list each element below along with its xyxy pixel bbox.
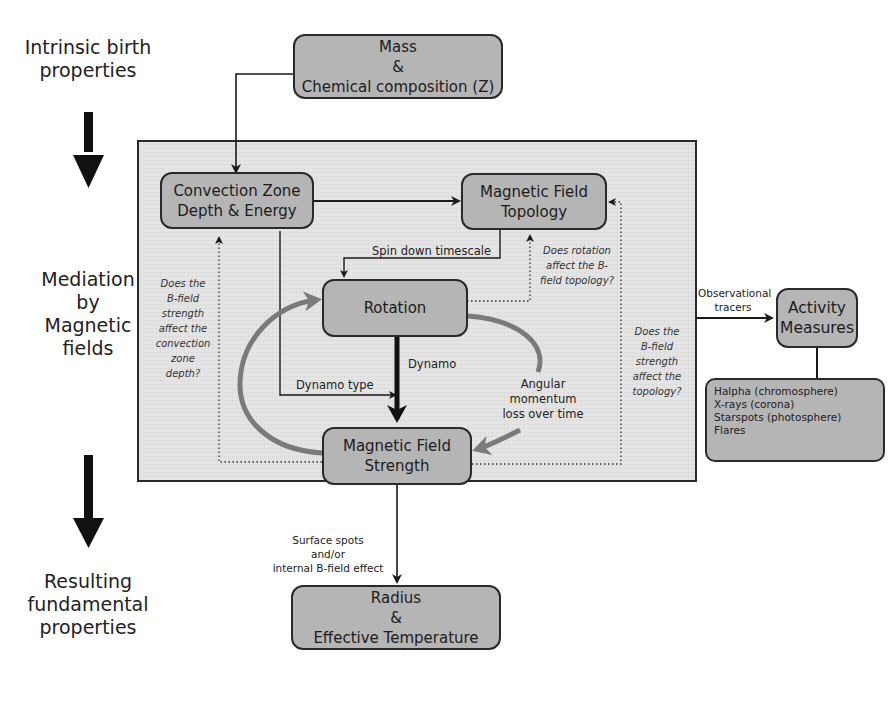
- question-line: affect the: [624, 369, 690, 384]
- box-line: Magnetic Field: [343, 436, 451, 456]
- label-intrinsic-birth: Intrinsic birth properties: [0, 36, 176, 82]
- question-line: affect the: [150, 321, 216, 336]
- label-line: Resulting: [0, 570, 176, 593]
- edge-label-surface-spots: Surface spots and/or internal B-field ef…: [258, 533, 398, 575]
- question-line: Does the: [624, 324, 690, 339]
- box-line: Measures: [780, 318, 854, 338]
- box-magnetic-topology: Magnetic Field Topology: [461, 173, 607, 230]
- edge-label-spin-down: Spin down timescale: [372, 244, 491, 258]
- tracer-item: Flares: [714, 424, 883, 437]
- label-line: internal B-field effect: [258, 561, 398, 575]
- question-line: zone: [150, 351, 216, 366]
- question-rotation-topology: Does rotation affect the B- field topolo…: [536, 243, 618, 288]
- label-line: loss over time: [488, 407, 598, 422]
- box-activity-measures: Activity Measures: [776, 288, 858, 348]
- question-line: Does rotation: [536, 243, 618, 258]
- label-line: tracers: [698, 300, 768, 314]
- box-line: Strength: [365, 456, 430, 476]
- question-line: B-field: [150, 291, 216, 306]
- question-line: field topology?: [536, 273, 618, 288]
- label-line: properties: [0, 59, 176, 82]
- edge-label-observational-tracers: Observational tracers: [698, 286, 768, 314]
- down-arrow-icon: [73, 112, 104, 188]
- down-arrow-icon: [73, 455, 104, 548]
- label-resulting: Resulting fundamental properties: [0, 570, 176, 639]
- question-line: B-field: [624, 339, 690, 354]
- label-line: fundamental: [0, 593, 176, 616]
- box-line: Rotation: [364, 298, 427, 318]
- box-line: Effective Temperature: [313, 628, 478, 648]
- label-line: Surface spots: [258, 533, 398, 547]
- label-line: Intrinsic birth: [0, 36, 176, 59]
- label-line: and/or: [258, 547, 398, 561]
- box-line: &: [390, 608, 402, 628]
- tracer-item: X-rays (corona): [714, 398, 883, 411]
- question-line: Does the: [150, 276, 216, 291]
- question-line: affect the B-: [536, 258, 618, 273]
- box-line: Topology: [501, 202, 567, 222]
- question-line: strength: [624, 354, 690, 369]
- question-line: topology?: [624, 384, 690, 399]
- question-line: strength: [150, 306, 216, 321]
- box-line: Mass: [379, 37, 417, 57]
- edge-label-dynamo-type: Dynamo type: [296, 378, 374, 392]
- box-line: &: [392, 57, 404, 77]
- box-radius-temperature: Radius & Effective Temperature: [291, 585, 501, 650]
- box-line: Radius: [371, 588, 421, 608]
- box-line: Magnetic Field: [480, 182, 588, 202]
- question-line: depth?: [150, 366, 216, 381]
- question-strength-convection: Does the B-field strength affect the con…: [150, 276, 216, 381]
- box-convection-zone: Convection Zone Depth & Energy: [160, 172, 314, 229]
- box-line: Chemical composition (Z): [302, 77, 495, 97]
- question-strength-topology: Does the B-field strength affect the top…: [624, 324, 690, 399]
- label-line: Observational: [698, 286, 768, 300]
- tracer-item: Halpha (chromosphere): [714, 385, 883, 398]
- label-line: properties: [0, 616, 176, 639]
- box-line: Depth & Energy: [177, 201, 296, 221]
- box-magnetic-strength: Magnetic Field Strength: [322, 427, 472, 485]
- label-line: Angular: [488, 377, 598, 392]
- question-line: convection: [150, 336, 216, 351]
- box-rotation: Rotation: [322, 279, 468, 337]
- box-line: Convection Zone: [173, 181, 300, 201]
- edge-label-dynamo: Dynamo: [408, 357, 456, 371]
- box-line: Activity: [788, 298, 846, 318]
- label-line: momentum: [488, 392, 598, 407]
- box-activity-tracers: Halpha (chromosphere) X-rays (corona) St…: [705, 378, 885, 462]
- box-mass: Mass & Chemical composition (Z): [293, 34, 503, 99]
- tracer-item: Starspots (photosphere): [714, 411, 883, 424]
- edge-label-angular-momentum: Angular momentum loss over time: [488, 377, 598, 422]
